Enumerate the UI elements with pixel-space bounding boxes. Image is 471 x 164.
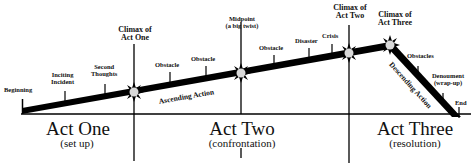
second-thoughts-line2: Thoughts bbox=[91, 71, 117, 78]
act-three-heading: Act Three (resolution) bbox=[372, 119, 458, 149]
midpoint-burst-icon bbox=[231, 63, 251, 83]
ascending-action-line bbox=[22, 42, 390, 114]
act-one-heading: Act One (set up) bbox=[46, 119, 108, 149]
climax-act-one-line2: Act One bbox=[112, 34, 158, 42]
inciting-incident-label: Inciting Incident bbox=[51, 72, 74, 85]
obstacle-1-label: Obstacle bbox=[155, 62, 179, 69]
climax-act-three-line2: Act Three bbox=[372, 19, 418, 27]
act-three-subtitle: (resolution) bbox=[372, 138, 458, 149]
climax-act-two-burst-icon bbox=[339, 43, 359, 63]
obstacle-2-label: Obstacle bbox=[191, 56, 215, 63]
denouement-line2: (wrap-up) bbox=[428, 80, 468, 87]
crisis-label: Crisis bbox=[322, 33, 338, 40]
end-label: End bbox=[455, 100, 467, 107]
act-three-title: Act Three bbox=[372, 119, 458, 138]
act-two-title: Act Two bbox=[205, 119, 279, 138]
act-two-subtitle: (confrontation) bbox=[205, 138, 279, 149]
second-thoughts-label: Second Thoughts bbox=[91, 64, 117, 77]
climax-act-three-burst-icon bbox=[380, 35, 400, 55]
obstacle-3-label: Obstacle bbox=[259, 45, 283, 52]
beginning-label: Beginning bbox=[4, 87, 32, 94]
midpoint-line2: (a big twist) bbox=[220, 23, 264, 30]
climax-act-one-label: Climax of Act One bbox=[112, 26, 158, 43]
climax-act-one-burst-icon bbox=[124, 82, 144, 102]
climax-act-three-label: Climax of Act Three bbox=[372, 11, 418, 28]
denouement-label: Denoument (wrap-up) bbox=[428, 73, 468, 86]
act-one-subtitle: (set up) bbox=[46, 138, 108, 149]
midpoint-label: Midpoint (a big twist) bbox=[220, 16, 264, 29]
act-two-heading: Act Two (confrontation) bbox=[205, 119, 279, 149]
disaster-label: Disaster bbox=[295, 38, 318, 45]
obstacles-label: Obstacles bbox=[407, 53, 434, 60]
inciting-incident-line2: Incident bbox=[51, 79, 74, 86]
act-one-title: Act One bbox=[46, 119, 108, 138]
climax-act-two-line2: Act Two bbox=[329, 12, 371, 20]
climax-act-two-label: Climax of Act Two bbox=[329, 4, 371, 21]
